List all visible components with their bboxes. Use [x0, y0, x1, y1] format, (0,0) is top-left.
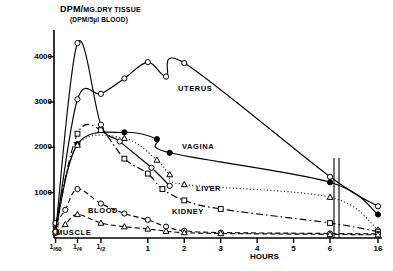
data-point-marker — [145, 60, 150, 65]
data-point-marker — [328, 221, 333, 226]
data-point-marker — [375, 212, 380, 217]
x-axis-label: HOURS — [250, 252, 279, 261]
data-point-marker — [327, 174, 332, 179]
data-point-marker — [182, 198, 187, 203]
data-point-marker — [167, 183, 172, 188]
data-point-marker — [122, 76, 127, 81]
data-point-marker — [98, 122, 103, 127]
x-tick-label: 1 — [146, 244, 150, 253]
data-point-marker — [122, 130, 127, 135]
data-point-marker — [62, 221, 68, 226]
data-point-marker — [75, 40, 80, 45]
data-point-marker — [75, 131, 80, 136]
x-tick-label: 1/2 — [96, 242, 105, 251]
data-point-marker — [218, 207, 223, 212]
curve-label-muscle: MUSCLE — [56, 228, 91, 237]
x-tick-label: 16 — [374, 244, 383, 253]
data-point-marker — [327, 180, 332, 185]
data-point-marker — [75, 211, 81, 216]
data-point-marker — [122, 211, 127, 216]
curve-label-kidney: KIDNEY — [172, 207, 204, 216]
x-tick-label: 6 — [328, 244, 332, 253]
x-tick-label: 1/4 — [73, 242, 82, 251]
data-point-marker — [145, 171, 150, 176]
chart-figure: DPM/MG.DRY TISSUE (DPM/5µl BLOOD) 100020… — [0, 0, 393, 271]
data-point-marker — [75, 186, 80, 191]
curve-label-blood: BLOOD — [88, 206, 118, 215]
data-point-marker — [117, 139, 122, 144]
data-point-marker — [149, 165, 154, 170]
data-point-marker — [121, 135, 127, 140]
data-point-marker — [63, 207, 68, 212]
x-tick-label: 5 — [291, 244, 295, 253]
curve-label-liver: LIVER — [196, 184, 221, 193]
x-tick-label: 2 — [182, 244, 186, 253]
data-point-marker — [167, 150, 172, 155]
data-point-marker — [145, 217, 150, 222]
data-point-marker — [375, 204, 380, 209]
data-point-marker — [122, 156, 127, 161]
data-point-marker — [154, 157, 160, 162]
data-point-marker — [98, 91, 103, 96]
x-tick-label: 3 — [218, 244, 222, 253]
data-point-marker — [182, 60, 187, 65]
data-point-marker — [53, 220, 58, 225]
curve-label-vagina: VAGINA — [182, 142, 214, 151]
data-point-marker — [160, 187, 165, 192]
data-point-marker — [75, 97, 80, 102]
curve-label-uterus: UTERUS — [178, 84, 212, 93]
data-point-marker — [154, 137, 159, 142]
x-tick-label: 1/60 — [49, 242, 61, 251]
data-point-marker — [163, 74, 168, 79]
